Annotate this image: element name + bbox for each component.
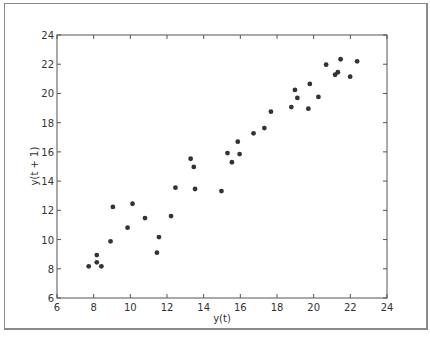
x-axis-label: y(t) [213,313,231,324]
x-tick-label: 20 [307,302,320,313]
data-point [316,95,321,100]
data-point [293,88,298,93]
data-point [94,253,99,258]
data-point [99,264,104,269]
data-point [94,260,99,265]
data-point [335,70,340,75]
y-tick-label: 10 [41,235,54,246]
data-point [130,201,135,206]
scatter-plot: 681012141618202224681012141618202224 y(t… [0,0,430,340]
x-tick-label: 18 [271,302,284,313]
data-point [125,225,130,230]
y-tick-label: 24 [41,30,54,41]
x-tick-label: 14 [197,302,210,313]
data-point [306,106,311,111]
x-tick-label: 16 [234,302,247,313]
data-point [111,205,116,210]
data-points [86,57,359,269]
data-point [143,216,148,221]
data-point [324,62,329,67]
data-point [348,74,353,79]
data-point [307,82,312,87]
y-tick-label: 14 [41,176,54,187]
data-point [155,250,160,255]
y-tick-label: 8 [48,264,54,275]
y-tick-label: 12 [41,205,54,216]
data-point [225,151,230,156]
data-point [86,264,91,269]
data-point [269,109,274,114]
data-point [235,139,240,144]
data-point [251,131,256,136]
data-point [169,214,174,219]
data-point [193,187,198,192]
x-tick-label: 12 [161,302,174,313]
data-point [355,59,360,64]
axis-ticks: 681012141618202224681012141618202224 [41,30,393,313]
x-tick-label: 24 [381,302,394,313]
data-point [237,152,242,157]
y-tick-label: 20 [41,88,54,99]
data-point [289,105,294,110]
x-tick-label: 8 [90,302,96,313]
x-tick-label: 10 [124,302,137,313]
y-axis-label: y(t + 1) [29,147,40,186]
y-tick-label: 16 [41,147,54,158]
data-point [338,57,343,62]
data-point [188,156,193,161]
data-point [262,126,267,131]
data-point [295,96,300,101]
data-point [157,235,162,240]
y-tick-label: 6 [48,293,54,304]
y-tick-label: 22 [41,59,54,70]
data-point [173,185,178,190]
x-tick-label: 22 [344,302,357,313]
data-point [219,189,224,194]
data-point [230,160,235,165]
x-tick-label: 6 [54,302,60,313]
data-point [108,239,113,244]
data-point [191,165,196,170]
y-tick-label: 18 [41,118,54,129]
